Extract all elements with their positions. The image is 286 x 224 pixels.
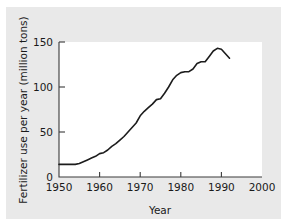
x-axis-tick-labels: 195019601970198019902000 xyxy=(46,181,276,193)
y-axis-tick-labels: 050100150 xyxy=(33,36,53,183)
y-axis-title: Fertilizer use per year (million tons) xyxy=(17,16,29,203)
x-axis-title: Year xyxy=(148,204,172,216)
x-tick-label: 1970 xyxy=(127,181,154,193)
y-tick-label: 50 xyxy=(40,126,53,138)
x-tick-label: 1960 xyxy=(86,181,113,193)
y-tick-label: 100 xyxy=(33,81,53,93)
y-tick-label: 0 xyxy=(46,171,53,183)
plot-area-background xyxy=(59,42,262,177)
figure-container: 195019601970198019902000 050100150 Year … xyxy=(0,0,286,224)
x-tick-label: 1980 xyxy=(167,181,194,193)
x-tick-label: 1990 xyxy=(208,181,235,193)
y-tick-label: 150 xyxy=(33,36,53,48)
x-tick-label: 2000 xyxy=(249,181,276,193)
line-chart: 195019601970198019902000 050100150 Year … xyxy=(0,0,286,224)
